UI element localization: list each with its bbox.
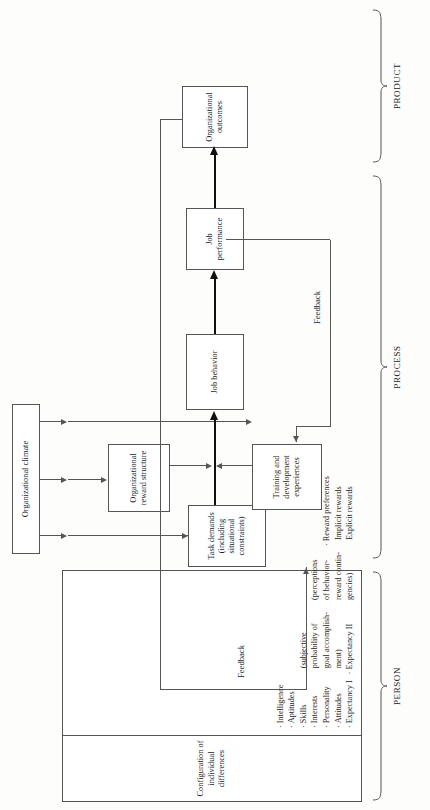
- config-line-2: individual differences: [207, 739, 228, 798]
- feedback-right-vertical: [226, 239, 330, 240]
- feedback-left-vertical: [160, 689, 306, 690]
- climate-arrow-line-1: [40, 535, 62, 536]
- performance-to-outcomes-arrowhead: [210, 146, 218, 155]
- individual-differences-item: Aptitudes: [286, 680, 298, 728]
- climate-arrow-line-2: [40, 479, 62, 480]
- training-line-2: development: [282, 455, 292, 498]
- job-performance-line-1: Job: [205, 218, 215, 260]
- training-line-3: experiences: [292, 455, 302, 498]
- job-behavior-box: Job behavior: [186, 334, 244, 410]
- individual-differences-item: Skills: [298, 680, 310, 728]
- job-performance-line-2: performance: [215, 218, 225, 260]
- training-to-spine-line: [222, 465, 252, 466]
- individual-differences-title: Configuration of individual differences: [63, 735, 361, 801]
- feedback-left-horizontal: [160, 120, 161, 690]
- climate-to-training-arrowhead: [246, 419, 252, 425]
- individual-differences-item: Explicit rewards: [344, 476, 356, 546]
- behavior-to-performance-arrowhead: [210, 270, 218, 279]
- climate-to-reward-arrowhead: [101, 477, 107, 483]
- climate-arrow-line-3: [40, 421, 62, 422]
- individual-differences-item: Reward preferences: [321, 476, 333, 546]
- task-demands-line-3: situational: [227, 512, 237, 560]
- performance-to-outcomes-thick-line: [214, 154, 216, 208]
- individual-differences-item: (perceptions: [309, 552, 321, 606]
- training-development-box: Training and development experiences: [252, 444, 322, 510]
- individual-differences-column: Reward preferencesImplicit rewardsExplic…: [321, 476, 356, 546]
- organizational-climate-box: Organizational climate: [12, 404, 40, 554]
- behavior-to-performance-thick-line: [214, 278, 216, 334]
- feedback-right-label: Feedback: [312, 291, 322, 324]
- task-to-behavior-arrowhead: [210, 411, 218, 420]
- feedback-left-return: [306, 567, 307, 690]
- climate-to-training-line: [68, 421, 248, 422]
- individual-differences-box: Configuration of individual differences …: [62, 570, 362, 802]
- climate-arrowhead-2: [61, 477, 67, 483]
- section-label-person: PERSON: [392, 562, 402, 810]
- task-demands-line-1: Task demands: [207, 512, 217, 560]
- feedback-right-horizontal: [330, 240, 331, 427]
- task-to-behavior-thick-line: [214, 419, 216, 505]
- individual-differences-item: Expectancy II: [344, 612, 356, 674]
- organizational-outcomes-box: Organizational outcomes: [182, 86, 248, 148]
- config-line-1: Configuration of: [196, 739, 207, 798]
- feedback-left-stub: [160, 119, 182, 120]
- climate-to-task-arrowhead: [182, 533, 188, 539]
- individual-differences-item: ment): [333, 612, 345, 674]
- feedback-right-return-v: [296, 426, 330, 427]
- feedback-right-return-h: [296, 426, 297, 442]
- feedback-left-arrowhead: [303, 568, 309, 574]
- reward-structure-line-2: reward structure: [139, 451, 149, 506]
- rotated-diagram-canvas: Configuration of individual differences …: [0, 0, 430, 810]
- individual-differences-item: Attitudes: [333, 680, 345, 728]
- section-label-process: PROCESS: [392, 174, 402, 560]
- task-demands-line-4: constraints): [237, 512, 247, 560]
- reward-structure-line-1: Organizational: [129, 451, 139, 506]
- individual-differences-item: probability of: [309, 612, 321, 674]
- individual-differences-item: Intelligence: [275, 680, 287, 728]
- reward-to-spine-arrowhead: [206, 463, 212, 469]
- training-to-spine-arrowhead: [216, 463, 222, 469]
- individual-differences-item: (subjective: [298, 612, 310, 674]
- task-demands-line-2: (including: [217, 512, 227, 560]
- product-brace: [372, 8, 388, 164]
- outcomes-line-2: outcomes: [215, 92, 225, 142]
- feedback-left-label: Feedback: [236, 645, 246, 678]
- training-line-1: Training and: [272, 455, 282, 498]
- individual-differences-item: Interests: [309, 680, 321, 728]
- outcomes-line-1: Organizational: [205, 92, 215, 142]
- climate-arrowhead-3: [61, 419, 67, 425]
- individual-differences-item: gencies): [344, 552, 356, 606]
- organizational-climate-label: Organizational climate: [21, 441, 31, 517]
- job-behavior-label: Job behavior: [210, 350, 220, 393]
- climate-arrowhead-1: [61, 533, 67, 539]
- process-brace: [372, 174, 388, 560]
- individual-differences-column: (perceptionsof behavior-reward contin-ge…: [309, 552, 356, 606]
- climate-to-reward-line: [68, 479, 104, 480]
- individual-differences-item: Implicit rewards: [333, 476, 345, 546]
- individual-differences-item: Expectancy I: [344, 680, 356, 728]
- individual-differences-column: IntelligenceAptitudesSkillsInterestsPers…: [275, 680, 356, 728]
- reward-to-spine-line: [170, 465, 208, 466]
- figure-page: Configuration of individual differences …: [0, 0, 430, 810]
- climate-to-task-line: [68, 535, 188, 536]
- individual-differences-item: of behavior-: [321, 552, 333, 606]
- section-label-product: PRODUCT: [392, 8, 402, 164]
- individual-differences-item: reward contin-: [333, 552, 345, 606]
- person-brace: [372, 570, 388, 802]
- individual-differences-item: Personality: [321, 680, 333, 728]
- task-demands-box: Task demands (including situational cons…: [188, 505, 266, 567]
- individual-differences-item: goal accomplish-: [321, 612, 333, 674]
